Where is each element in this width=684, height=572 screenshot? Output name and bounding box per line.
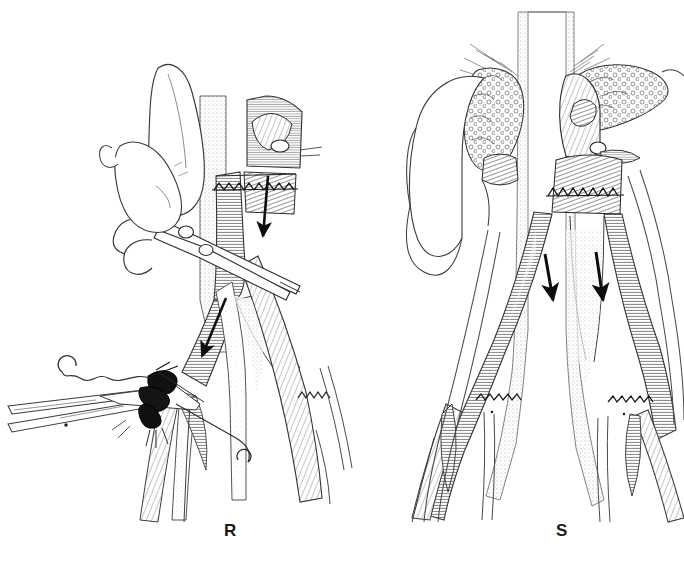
graft-body-S: [546, 155, 624, 214]
illustration-svg: [0, 0, 684, 572]
panel-label-R: R: [224, 521, 237, 541]
figure-canvas: R S: [0, 0, 684, 572]
panel-label-S: S: [556, 521, 568, 541]
